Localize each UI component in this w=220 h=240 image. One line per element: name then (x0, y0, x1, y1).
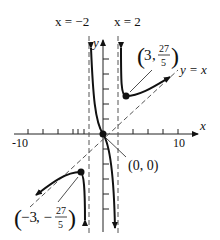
svg-text:27: 27 (159, 43, 169, 54)
point-local-min (123, 93, 130, 100)
label-local-max: ( −3 , − 27 5 ) (14, 205, 76, 231)
label-origin: (0, 0) (128, 158, 159, 174)
label-local-min: ( 3 , 27 5 ) (137, 43, 179, 69)
function-graph: x -10 10 y x = −2 x = 2 y = x (0, 0, 220, 240)
label-y-eq-x: y = x (178, 62, 207, 77)
asymptote-y-eq-x (30, 70, 178, 207)
leader-local-max (58, 177, 78, 202)
label-x-neg2: x = −2 (55, 14, 89, 29)
svg-text:−3: −3 (21, 209, 37, 225)
svg-text:27: 27 (56, 205, 66, 216)
y-axis-label: y (91, 35, 99, 50)
label-x-2: x = 2 (114, 14, 141, 29)
point-local-max (78, 169, 85, 176)
svg-text:5: 5 (161, 57, 166, 68)
svg-text:): ) (171, 43, 179, 69)
svg-text:): ) (68, 205, 76, 231)
svg-text:,: , (152, 47, 156, 63)
x-tick-label-10: 10 (173, 136, 185, 150)
svg-text:, −: , − (36, 209, 52, 225)
svg-text:3: 3 (144, 47, 152, 63)
point-origin (100, 131, 107, 138)
x-tick-label-neg10: -10 (12, 136, 28, 150)
x-axis-label: x (199, 118, 206, 133)
svg-text:5: 5 (58, 219, 63, 230)
